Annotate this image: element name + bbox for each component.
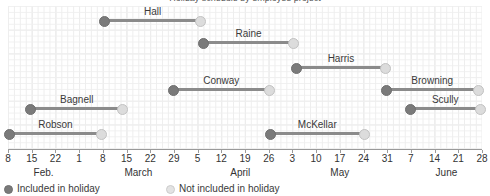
chart-legend: Included in holidayNot included in holid…	[4, 183, 490, 196]
x-tick-label: 24	[358, 153, 369, 165]
x-tick-label: 15	[26, 153, 37, 165]
x-tick-label: 15	[121, 153, 132, 165]
x-tick-label: 26	[263, 153, 274, 165]
not-included-in-holiday-marker-icon[interactable]	[288, 38, 299, 49]
included-in-holiday-marker-icon[interactable]	[99, 16, 110, 27]
x-tick-label: 5	[195, 153, 201, 165]
task-bar[interactable]: Conway	[172, 88, 272, 91]
plot-area: HallRaineHarrisBrowningConwayBagnellScul…	[8, 6, 482, 149]
legend-item[interactable]: Included in holiday	[4, 183, 100, 195]
included-in-holiday-marker-icon[interactable]	[25, 104, 36, 115]
task-bar[interactable]: Raine	[202, 41, 294, 44]
not-included-in-holiday-marker-icon[interactable]	[264, 85, 275, 96]
x-tick-label: 28	[476, 153, 487, 165]
included-in-holiday-marker-icon[interactable]	[265, 129, 276, 140]
not-included-in-holiday-marker-icon[interactable]	[473, 85, 484, 96]
x-tick-label: 8	[100, 153, 106, 165]
task-bar-label: Robson	[38, 119, 72, 130]
x-tick-label: 22	[145, 153, 156, 165]
x-tick-label: 29	[168, 153, 179, 165]
chart-title-clipped: Holiday schedule by employee project	[0, 0, 490, 5]
not-included-in-holiday-marker-icon[interactable]	[359, 129, 370, 140]
legend-label: Included in holiday	[17, 183, 100, 195]
legend-filled-dot-icon	[4, 185, 13, 194]
legend-item[interactable]: Not included in holiday	[166, 183, 280, 195]
not-included-in-holiday-marker-icon[interactable]	[117, 104, 128, 115]
task-bar[interactable]: Browning	[385, 88, 480, 91]
included-in-holiday-marker-icon[interactable]	[198, 38, 209, 49]
not-included-in-holiday-marker-icon[interactable]	[96, 129, 107, 140]
x-axis-month-labels: Feb.MarchAprilMayJune	[0, 167, 490, 181]
x-axis-month-label: June	[436, 167, 458, 179]
task-bar[interactable]: Scully	[409, 107, 482, 110]
included-in-holiday-marker-icon[interactable]	[4, 129, 15, 140]
legend-label: Not included in holiday	[179, 183, 280, 195]
x-tick-label: 7	[408, 153, 414, 165]
not-included-in-holiday-marker-icon[interactable]	[195, 16, 206, 27]
x-axis-month-label: March	[124, 167, 152, 179]
x-tick-label: 22	[50, 153, 61, 165]
included-in-holiday-marker-icon[interactable]	[168, 85, 179, 96]
task-bar-label: Bagnell	[60, 94, 93, 105]
x-tick-label: 21	[453, 153, 464, 165]
task-bar[interactable]: Robson	[8, 132, 103, 135]
task-bar-label: Raine	[235, 28, 261, 39]
x-tick-label: 8	[5, 153, 11, 165]
x-axis-month-label: April	[230, 167, 250, 179]
included-in-holiday-marker-icon[interactable]	[405, 104, 416, 115]
task-bar-label: Conway	[203, 75, 239, 86]
included-in-holiday-marker-icon[interactable]	[291, 63, 302, 74]
x-tick-label: 3	[290, 153, 296, 165]
x-axis-month-label: May	[330, 167, 349, 179]
task-bar-label: Harris	[328, 53, 355, 64]
task-bar-label: Browning	[411, 75, 453, 86]
chart-title: Holiday schedule by employee project	[0, 0, 490, 4]
task-bar-label: McKellar	[298, 119, 337, 130]
x-tick-label: 12	[216, 153, 227, 165]
task-bar[interactable]: Hall	[103, 19, 203, 22]
x-tick-label: 10	[311, 153, 322, 165]
task-bar[interactable]: McKellar	[269, 132, 366, 135]
task-bar-label: Hall	[144, 6, 161, 17]
not-included-in-holiday-marker-icon[interactable]	[380, 63, 391, 74]
included-in-holiday-marker-icon[interactable]	[381, 85, 392, 96]
x-axis-month-label: Feb.	[34, 167, 54, 179]
gantt-chart: Holiday schedule by employee project Hal…	[0, 0, 490, 196]
x-tick-label: 19	[239, 153, 250, 165]
x-tick-label: 31	[382, 153, 393, 165]
task-bar-label: Scully	[432, 94, 459, 105]
task-bar[interactable]: Bagnell	[29, 107, 124, 110]
x-tick-label: 14	[429, 153, 440, 165]
task-bar[interactable]: Harris	[295, 66, 387, 69]
not-included-in-holiday-marker-icon[interactable]	[475, 104, 486, 115]
legend-hollow-dot-icon	[166, 185, 175, 194]
x-tick-label: 17	[334, 153, 345, 165]
x-tick-label: 1	[76, 153, 82, 165]
